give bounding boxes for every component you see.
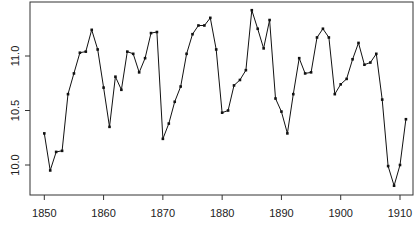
x-tick-label: 1900: [328, 207, 352, 219]
data-point: [304, 72, 307, 75]
data-point: [114, 75, 117, 78]
x-tick-label: 1860: [91, 207, 115, 219]
data-point: [167, 122, 170, 125]
data-point: [102, 86, 105, 89]
data-point: [79, 51, 82, 54]
data-point: [363, 63, 366, 66]
data-point: [387, 165, 390, 168]
data-point: [245, 69, 248, 72]
plot-frame: [30, 2, 413, 195]
data-point: [286, 132, 289, 135]
data-point: [138, 71, 141, 74]
data-point: [179, 85, 182, 88]
y-tick-label: 11.0: [9, 46, 21, 67]
data-point: [197, 24, 200, 27]
data-point: [381, 98, 384, 101]
data-point: [274, 97, 277, 100]
data-point: [96, 48, 99, 51]
x-tick-label: 1910: [388, 207, 412, 219]
data-point: [221, 111, 224, 114]
data-point: [268, 19, 271, 22]
y-tick-label: 10.0: [9, 154, 21, 175]
line-chart: 1850186018701880189019001910 10.010.511.…: [0, 0, 415, 238]
data-point: [43, 132, 46, 135]
data-point: [162, 138, 165, 141]
data-point: [108, 126, 111, 129]
y-tick-label: 10.5: [9, 100, 21, 121]
data-point: [369, 61, 372, 64]
data-point: [90, 29, 93, 32]
x-axis: 1850186018701880189019001910: [32, 195, 412, 219]
x-tick-label: 1880: [210, 207, 234, 219]
data-point: [333, 93, 336, 96]
data-point: [61, 150, 64, 153]
data-point: [203, 24, 206, 27]
series-line: [44, 10, 406, 186]
data-point: [298, 57, 301, 60]
data-point: [262, 47, 265, 50]
x-tick-label: 1870: [151, 207, 175, 219]
data-point: [84, 50, 87, 53]
data-point: [322, 27, 325, 30]
data-point: [316, 36, 319, 39]
data-point: [292, 93, 295, 96]
data-point: [310, 71, 313, 74]
data-point: [55, 151, 58, 154]
data-point: [185, 53, 188, 56]
data-point: [345, 78, 348, 81]
data-point: [144, 57, 147, 60]
data-point: [357, 42, 360, 45]
data-point: [256, 27, 259, 30]
data-point: [399, 164, 402, 167]
y-axis: 10.010.511.0: [9, 46, 30, 176]
data-point: [351, 58, 354, 61]
data-point: [339, 83, 342, 86]
data-point: [405, 118, 408, 121]
data-points: [43, 9, 407, 187]
data-point: [250, 9, 253, 12]
data-point: [49, 169, 52, 172]
data-point: [67, 93, 70, 96]
data-point: [120, 88, 123, 91]
x-tick-label: 1850: [32, 207, 56, 219]
data-point: [280, 110, 283, 113]
data-point: [375, 53, 378, 56]
data-point: [126, 50, 129, 53]
data-point: [73, 72, 76, 75]
data-point: [150, 32, 153, 35]
data-point: [239, 79, 242, 82]
x-tick-label: 1890: [269, 207, 293, 219]
data-point: [191, 33, 194, 36]
data-point: [209, 17, 212, 20]
data-point: [215, 48, 218, 51]
data-point: [393, 184, 396, 187]
data-point: [328, 36, 331, 39]
data-point: [173, 100, 176, 103]
data-point: [156, 31, 159, 34]
data-point: [132, 53, 135, 56]
data-point: [233, 84, 236, 87]
data-point: [227, 109, 230, 112]
